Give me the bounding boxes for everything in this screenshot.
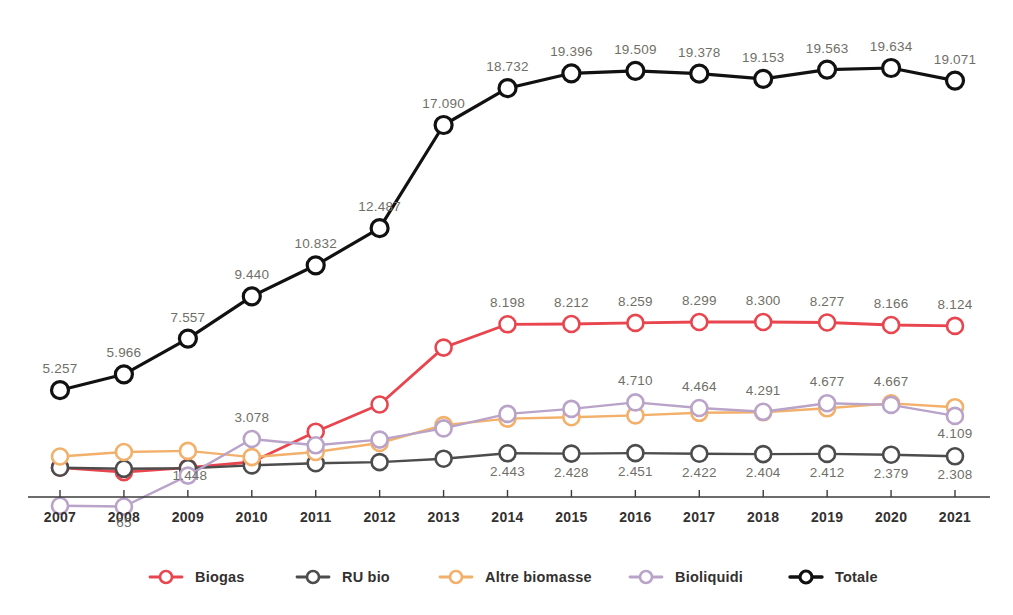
x-axis-tick-label-2017: 2017 bbox=[683, 509, 715, 525]
data-point-marker bbox=[563, 401, 579, 417]
value-label: 4.667 bbox=[874, 374, 909, 389]
value-label: 8.212 bbox=[554, 295, 589, 310]
data-point-marker bbox=[819, 446, 835, 462]
value-label: 19.563 bbox=[806, 41, 849, 56]
value-label: 9.440 bbox=[234, 267, 269, 282]
x-axis-tick-label-2018: 2018 bbox=[747, 509, 779, 525]
value-label: 2.422 bbox=[682, 465, 717, 480]
legend-label: Totale bbox=[835, 569, 878, 585]
value-label: 5.257 bbox=[43, 361, 78, 376]
data-point-marker bbox=[563, 65, 580, 82]
data-point-marker bbox=[52, 382, 69, 399]
legend-item-ru-bio[interactable]: RU bio bbox=[297, 569, 390, 585]
value-label: 4.109 bbox=[938, 426, 973, 441]
x-axis-tick-label-2014: 2014 bbox=[491, 509, 523, 525]
data-point-marker bbox=[947, 318, 963, 334]
legend-item-totale[interactable]: Totale bbox=[790, 569, 878, 585]
series-layer bbox=[52, 60, 964, 515]
legend-marker-icon bbox=[450, 571, 462, 583]
data-point-marker bbox=[307, 257, 324, 274]
data-point-marker bbox=[819, 395, 835, 411]
data-point-marker bbox=[819, 315, 835, 331]
x-axis: 2007200820092010201120122013201420152016… bbox=[28, 490, 990, 525]
value-label: 2.443 bbox=[490, 464, 525, 479]
data-point-marker bbox=[243, 288, 260, 305]
value-label: 8.259 bbox=[618, 294, 653, 309]
value-label: 4.291 bbox=[746, 383, 781, 398]
data-point-marker bbox=[819, 61, 836, 78]
value-label: 8.300 bbox=[746, 293, 781, 308]
value-label: 19.153 bbox=[742, 50, 785, 65]
value-label: 19.509 bbox=[614, 42, 657, 57]
data-point-marker bbox=[371, 220, 388, 237]
x-axis-tick-label-2020: 2020 bbox=[875, 509, 907, 525]
data-point-marker bbox=[435, 117, 452, 134]
value-label: 8.299 bbox=[682, 293, 717, 308]
chart-legend: BiogasRU bioAltre biomasseBioliquidiTota… bbox=[150, 569, 878, 585]
legend-label: Altre biomasse bbox=[485, 569, 592, 585]
legend-label: Bioliquidi bbox=[675, 569, 743, 585]
data-point-marker bbox=[116, 461, 132, 477]
series-totale bbox=[52, 60, 964, 399]
legend-marker-icon bbox=[307, 571, 319, 583]
data-point-marker bbox=[308, 437, 324, 453]
data-point-marker bbox=[372, 432, 388, 448]
value-label: 4.710 bbox=[618, 373, 653, 388]
data-point-marker bbox=[755, 446, 771, 462]
value-label: 7.557 bbox=[171, 310, 206, 325]
data-point-marker bbox=[755, 70, 772, 87]
data-point-marker bbox=[436, 451, 452, 467]
data-point-marker bbox=[627, 315, 643, 331]
data-point-marker bbox=[947, 72, 964, 89]
x-axis-tick-label-2019: 2019 bbox=[811, 509, 843, 525]
legend-item-bioliquidi[interactable]: Bioliquidi bbox=[630, 569, 743, 585]
line-chart-plot: 2007200820092010201120122013201420152016… bbox=[0, 0, 1013, 615]
legend-marker-icon bbox=[160, 571, 172, 583]
data-point-marker bbox=[115, 366, 132, 383]
value-label: 8.124 bbox=[938, 297, 973, 312]
value-label: 4.677 bbox=[810, 374, 845, 389]
x-axis-tick-label-2021: 2021 bbox=[939, 509, 971, 525]
value-label: 10.832 bbox=[294, 236, 337, 251]
value-label: 12.487 bbox=[358, 199, 401, 214]
value-label: 8.166 bbox=[874, 296, 909, 311]
data-point-marker bbox=[436, 340, 452, 356]
value-label: 19.396 bbox=[550, 44, 593, 59]
data-point-marker bbox=[436, 420, 452, 436]
data-point-marker bbox=[947, 448, 963, 464]
value-label: 2.379 bbox=[874, 466, 909, 481]
data-point-marker bbox=[755, 404, 771, 420]
data-point-marker bbox=[52, 449, 68, 465]
data-point-marker bbox=[244, 449, 260, 465]
value-label: 8.277 bbox=[810, 294, 845, 309]
data-point-marker bbox=[500, 316, 516, 332]
x-axis-tick-label-2016: 2016 bbox=[619, 509, 651, 525]
legend-marker-icon bbox=[640, 571, 652, 583]
legend-item-altre-biomasse[interactable]: Altre biomasse bbox=[440, 569, 592, 585]
x-axis-tick-label-2009: 2009 bbox=[172, 509, 204, 525]
legend-item-biogas[interactable]: Biogas bbox=[150, 569, 245, 585]
data-point-marker bbox=[691, 314, 707, 330]
x-axis-tick-label-2007: 2007 bbox=[44, 509, 76, 525]
data-point-marker bbox=[691, 446, 707, 462]
data-point-marker bbox=[883, 317, 899, 333]
data-point-marker bbox=[499, 80, 516, 97]
value-label: 1.448 bbox=[173, 468, 208, 483]
data-point-marker bbox=[244, 431, 260, 447]
value-label: 5.966 bbox=[107, 345, 142, 360]
chart-container: 2007200820092010201120122013201420152016… bbox=[0, 0, 1013, 615]
value-label: 19.071 bbox=[934, 52, 977, 67]
x-axis-tick-label-2015: 2015 bbox=[555, 509, 587, 525]
data-point-marker bbox=[372, 454, 388, 470]
data-point-marker bbox=[116, 444, 132, 460]
data-point-marker bbox=[500, 406, 516, 422]
data-point-marker bbox=[883, 397, 899, 413]
data-point-marker bbox=[883, 447, 899, 463]
value-label: 65 bbox=[116, 515, 131, 530]
value-label: 2.428 bbox=[554, 465, 589, 480]
x-axis-tick-label-2013: 2013 bbox=[427, 509, 459, 525]
value-label: 2.412 bbox=[810, 465, 845, 480]
legend-marker-icon bbox=[800, 571, 812, 583]
data-point-marker bbox=[755, 314, 771, 330]
data-point-marker bbox=[563, 316, 579, 332]
